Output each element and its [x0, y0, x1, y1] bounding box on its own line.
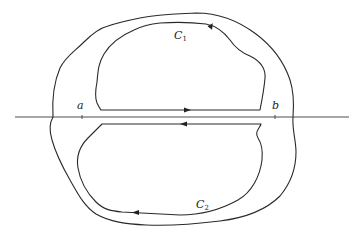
outer-contour [50, 13, 296, 225]
contour-c1-label: C1 [174, 30, 187, 43]
point-b-label: b [272, 100, 279, 111]
point-b-text: b [272, 99, 279, 112]
contour-c2 [77, 124, 262, 215]
contour-c2-label: C2 [196, 199, 209, 212]
arrow-right-icon [184, 108, 191, 113]
point-a-label: a [77, 100, 84, 111]
arrow-c2-icon [132, 210, 139, 215]
c2-sub: 2 [204, 204, 208, 212]
arrow-left-icon [180, 122, 187, 127]
point-a-text: a [77, 99, 84, 112]
c1-sub: 1 [182, 35, 186, 43]
